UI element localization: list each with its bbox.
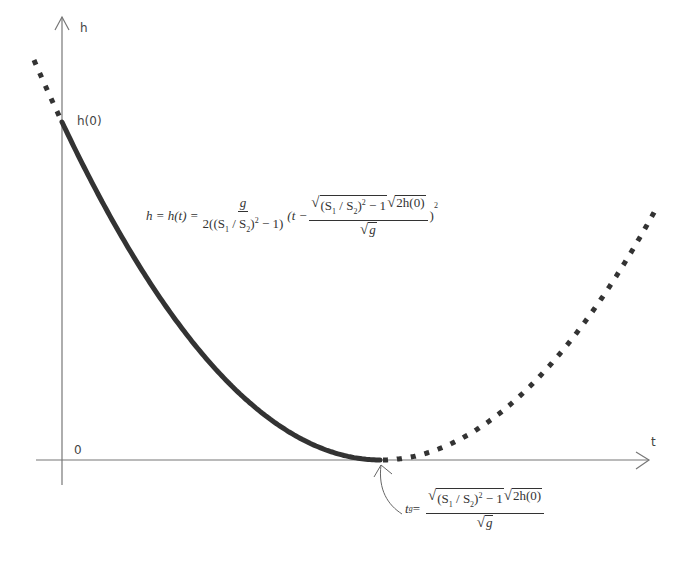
tg-den: √g bbox=[475, 514, 496, 530]
eq-frac1-den: 2((S1 / S2)2 − 1) bbox=[201, 212, 286, 237]
origin-label: 0 bbox=[74, 443, 82, 457]
equation-t-g: tg = √(S1 / S2)2 − 1√2h(0) √g bbox=[405, 488, 546, 530]
tg-pointer-arrowhead-icon bbox=[374, 465, 392, 477]
diagram-canvas: h t 0 h(0) bbox=[0, 0, 685, 564]
eq-fraction-2: √(S1 / S2)2 − 1√2h(0) √g bbox=[309, 195, 427, 237]
eq-paren-close: ) bbox=[430, 208, 434, 224]
eq-fraction-1: g 2((S1 / S2)2 − 1) bbox=[201, 195, 286, 237]
y-axis-label: h bbox=[80, 21, 88, 35]
curve-dotted-right-segment bbox=[383, 209, 656, 460]
curve-solid-segment bbox=[62, 122, 380, 460]
eq-frac2-den: √g bbox=[358, 221, 379, 237]
h0-label: h(0) bbox=[77, 114, 102, 128]
eq-lhs: h = h(t) = bbox=[146, 208, 199, 224]
parabola-curve bbox=[34, 60, 656, 460]
eq-paren-open: (t − bbox=[287, 208, 307, 224]
tg-pointer-arrow bbox=[380, 465, 402, 514]
eq-frac2-num: √(S1 / S2)2 − 1√2h(0) bbox=[309, 195, 427, 221]
eq-exponent: 2 bbox=[434, 201, 438, 210]
equation-h-of-t: h = h(t) = g 2((S1 / S2)2 − 1) (t − √(S1… bbox=[146, 195, 438, 237]
tg-fraction: √(S1 / S2)2 − 1√2h(0) √g bbox=[426, 488, 544, 530]
x-axis-label: t bbox=[651, 435, 656, 449]
curve-dotted-left-segment bbox=[34, 60, 60, 118]
tg-equals: = bbox=[413, 501, 420, 517]
tg-num: √(S1 / S2)2 − 1√2h(0) bbox=[426, 488, 544, 514]
eq-frac1-num: g bbox=[240, 195, 247, 210]
